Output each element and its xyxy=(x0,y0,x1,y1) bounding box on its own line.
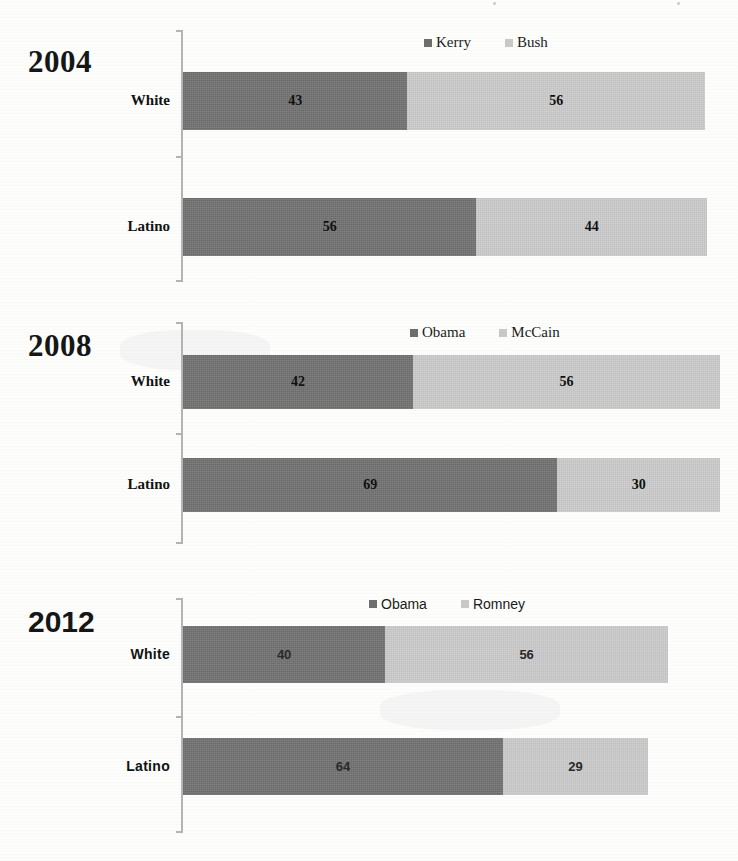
bar-segment-mccain-latino[interactable]: 30 xyxy=(557,458,720,512)
scan-artifact xyxy=(677,2,680,5)
chart-panel-2004: 2004 Kerry Bush White 43 xyxy=(0,18,738,290)
legend-label-mccain: McCain xyxy=(511,324,559,341)
legend-label-kerry: Kerry xyxy=(436,34,471,51)
stacked-bar-latino-2004[interactable]: 56 44 xyxy=(183,198,707,256)
bar-segment-romney-white[interactable]: 56 xyxy=(385,626,668,683)
category-label-latino: Latino xyxy=(60,476,170,493)
legend-swatch-icon-obama xyxy=(369,600,377,608)
bar-segment-bush-white[interactable]: 56 xyxy=(407,72,705,130)
bar-value-obama-latino: 64 xyxy=(336,759,350,774)
axis-tick-bottom xyxy=(176,542,182,544)
bar-segment-romney-latino[interactable]: 29 xyxy=(503,738,648,795)
bar-segment-kerry-white[interactable]: 43 xyxy=(183,72,407,130)
bar-value-kerry-latino: 56 xyxy=(323,219,337,235)
axis-tick-middle xyxy=(176,716,182,718)
bar-segment-bush-latino[interactable]: 44 xyxy=(476,198,707,256)
bar-value-romney-latino: 29 xyxy=(568,759,582,774)
stacked-bar-white-2004[interactable]: 43 56 xyxy=(183,72,705,130)
axis-tick-bottom xyxy=(176,831,182,833)
legend-label-obama: Obama xyxy=(381,596,427,612)
category-label-white: White xyxy=(60,373,170,390)
axis-tick-top xyxy=(176,30,182,32)
category-label-white: White xyxy=(60,92,170,109)
bar-segment-kerry-latino[interactable]: 56 xyxy=(183,198,476,256)
axis-tick-top xyxy=(176,322,182,324)
bar-row-white-2004: White 43 56 xyxy=(0,72,738,130)
stacked-bar-latino-2012[interactable]: 64 29 xyxy=(183,738,648,795)
legend-item-mccain[interactable]: McCain xyxy=(499,324,559,341)
bar-segment-obama-latino[interactable]: 69 xyxy=(183,458,557,512)
bar-value-obama-white: 42 xyxy=(291,374,305,390)
bar-row-latino-2004: Latino 56 44 xyxy=(0,198,738,256)
legend-swatch-icon-bush xyxy=(505,39,513,47)
axis-tick-middle xyxy=(176,156,182,158)
category-label-latino: Latino xyxy=(60,218,170,235)
legend-2012: Obama Romney xyxy=(369,596,525,612)
chart-panel-2012: 2012 Obama Romney White 40 xyxy=(0,576,738,856)
bar-segment-mccain-white[interactable]: 56 xyxy=(413,355,720,409)
bar-value-kerry-white: 43 xyxy=(288,93,302,109)
legend-item-obama[interactable]: Obama xyxy=(410,324,465,341)
axis-tick-bottom xyxy=(176,280,182,282)
legend-2004: Kerry Bush xyxy=(424,34,548,51)
legend-label-romney: Romney xyxy=(473,596,525,612)
legend-label-bush: Bush xyxy=(517,34,548,51)
category-label-latino: Latino xyxy=(60,758,170,774)
bar-segment-obama-white[interactable]: 40 xyxy=(183,626,385,683)
chart-panel-2008: 2008 Obama McCain White 42 xyxy=(0,300,738,562)
category-label-white: White xyxy=(60,646,170,662)
bar-row-white-2012: White 40 56 xyxy=(0,626,738,683)
bar-value-obama-latino: 69 xyxy=(363,477,377,493)
legend-swatch-icon-romney xyxy=(461,600,469,608)
legend-swatch-icon-mccain xyxy=(499,329,507,337)
axis-tick-top xyxy=(176,598,182,600)
bar-value-obama-white: 40 xyxy=(277,647,291,662)
legend-2008: Obama McCain xyxy=(410,324,560,341)
legend-swatch-icon-kerry xyxy=(424,39,432,47)
bar-value-mccain-latino: 30 xyxy=(632,477,646,493)
bar-segment-obama-latino[interactable]: 64 xyxy=(183,738,503,795)
legend-item-obama[interactable]: Obama xyxy=(369,596,427,612)
bar-segment-obama-white[interactable]: 42 xyxy=(183,355,413,409)
legend-label-obama: Obama xyxy=(422,324,465,341)
legend-item-kerry[interactable]: Kerry xyxy=(424,34,471,51)
stacked-bar-white-2012[interactable]: 40 56 xyxy=(183,626,668,683)
legend-item-romney[interactable]: Romney xyxy=(461,596,525,612)
bar-value-bush-white: 56 xyxy=(549,93,563,109)
axis-tick-middle xyxy=(176,433,182,435)
bar-value-mccain-white: 56 xyxy=(559,374,573,390)
bar-row-white-2008: White 42 56 xyxy=(0,355,738,409)
scan-artifact xyxy=(493,2,496,5)
stacked-bar-latino-2008[interactable]: 69 30 xyxy=(183,458,720,512)
legend-swatch-icon-obama xyxy=(410,329,418,337)
bar-value-romney-white: 56 xyxy=(519,647,533,662)
stacked-bar-white-2008[interactable]: 42 56 xyxy=(183,355,720,409)
bar-value-bush-latino: 44 xyxy=(585,219,599,235)
chart-page: 2004 Kerry Bush White 43 xyxy=(0,0,738,861)
bar-row-latino-2008: Latino 69 30 xyxy=(0,458,738,512)
bar-row-latino-2012: Latino 64 29 xyxy=(0,738,738,795)
legend-item-bush[interactable]: Bush xyxy=(505,34,548,51)
